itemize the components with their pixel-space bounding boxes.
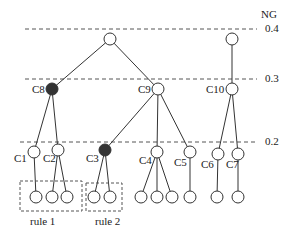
leaf-node bbox=[211, 191, 223, 203]
node-c8 bbox=[46, 83, 58, 95]
cluster-tree-diagram: NG 0.4 0.3 0.2 rule 1 rule 2 bbox=[0, 0, 291, 235]
node-c4 bbox=[151, 146, 163, 158]
label-c3: C3 bbox=[86, 152, 99, 164]
level-label-0.4: 0.4 bbox=[265, 22, 279, 34]
label-c5: C5 bbox=[174, 156, 187, 168]
level-label-0.3: 0.3 bbox=[265, 72, 279, 84]
node-c9 bbox=[152, 83, 164, 95]
label-c4: C4 bbox=[139, 154, 152, 166]
root-node-a bbox=[104, 33, 116, 45]
label-c1: C1 bbox=[14, 152, 27, 164]
leaf-node bbox=[184, 191, 196, 203]
leaf-node bbox=[88, 191, 100, 203]
label-c2: C2 bbox=[43, 152, 56, 164]
leaf-node bbox=[46, 191, 58, 203]
root-node-b bbox=[226, 33, 238, 45]
leaf-node bbox=[232, 191, 244, 203]
rule-2-label: rule 2 bbox=[95, 215, 120, 227]
leaf-node bbox=[61, 191, 73, 203]
node-c10 bbox=[226, 83, 238, 95]
leaf-node bbox=[30, 191, 42, 203]
label-c6: C6 bbox=[201, 158, 214, 170]
leaf-node bbox=[135, 191, 147, 203]
rule-1-label: rule 1 bbox=[30, 215, 55, 227]
leaf-node bbox=[151, 191, 163, 203]
tree-nodes bbox=[28, 33, 244, 203]
leaf-node bbox=[104, 191, 116, 203]
node-c1 bbox=[28, 146, 40, 158]
label-c7: C7 bbox=[226, 158, 239, 170]
label-c10: C10 bbox=[206, 83, 225, 95]
label-c9: C9 bbox=[138, 83, 151, 95]
node-c3 bbox=[99, 144, 111, 156]
label-c8: C8 bbox=[32, 83, 45, 95]
axis-title: NG bbox=[261, 8, 277, 20]
leaf-node bbox=[166, 191, 178, 203]
tree-edges bbox=[34, 39, 238, 197]
level-label-0.2: 0.2 bbox=[265, 135, 279, 147]
